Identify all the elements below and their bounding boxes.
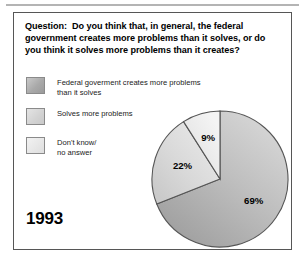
pie-chart: 69% 22% 9%: [149, 108, 291, 250]
legend-item-label: Don't know/ no answer: [57, 136, 96, 157]
chart-panel: Question: Do you think that, in general,…: [13, 12, 292, 250]
legend-item-label: Solves more problems: [57, 107, 133, 119]
top-divider: [6, 4, 299, 6]
pie-label-solves-problems: 22%: [173, 160, 193, 171]
pie-label-dont-know: 9%: [201, 132, 215, 143]
legend-item-label: Federal goverment creates more problems …: [57, 76, 201, 97]
pie-chart-svg: 69% 22% 9%: [149, 108, 291, 250]
question-text: Question: Do you think that, in general,…: [25, 20, 283, 57]
swatch-solves-problems-icon: [26, 108, 45, 125]
year-label: 1993: [26, 209, 63, 229]
swatch-creates-problems-icon: [26, 77, 45, 94]
chart-page: Question: Do you think that, in general,…: [0, 0, 305, 268]
legend-item: Federal goverment creates more problems …: [26, 76, 216, 97]
pie-label-creates-problems: 69%: [244, 195, 264, 206]
swatch-dont-know-icon: [26, 137, 45, 154]
